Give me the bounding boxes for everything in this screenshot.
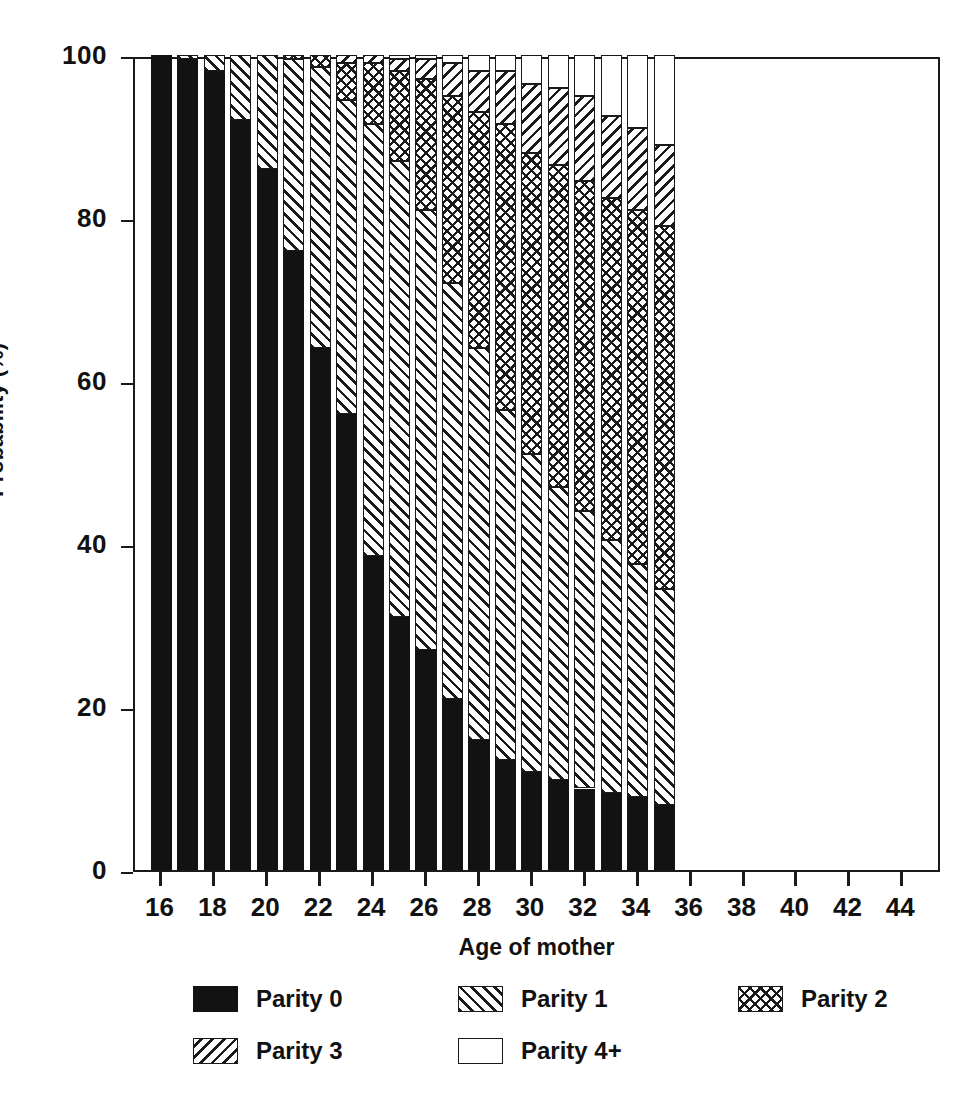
bar-segment (204, 71, 225, 870)
bar-segment (601, 793, 622, 870)
bar-segment (468, 71, 489, 112)
x-axis-tick (689, 872, 692, 886)
legend-item: Parity 4+ (458, 1037, 622, 1065)
bar-segment (415, 210, 436, 650)
x-axis: Age of mother 16182022242628303234363840… (133, 872, 940, 992)
bar-column (574, 55, 595, 870)
y-axis-tick (121, 709, 133, 711)
bar-segment (521, 84, 542, 153)
bar-segment (415, 55, 436, 59)
bar-segment (495, 760, 516, 870)
y-axis-tick (121, 546, 133, 548)
legend-swatch (193, 986, 238, 1012)
legend-item: Parity 3 (193, 1037, 343, 1065)
bar-column (389, 55, 410, 870)
x-axis-tick (477, 872, 480, 886)
bar-column (283, 55, 304, 870)
x-axis-tick (636, 872, 639, 886)
bar-column (415, 55, 436, 870)
bar-column (310, 55, 331, 870)
x-axis-tick (212, 872, 215, 886)
bar-segment (442, 96, 463, 283)
bar-segment (521, 454, 542, 772)
legend-label: Parity 0 (256, 985, 343, 1013)
x-axis-label: 44 (886, 892, 915, 923)
bar-segment (442, 55, 463, 63)
bar-column (336, 55, 357, 870)
x-axis-tick (371, 872, 374, 886)
bar-segment (230, 55, 251, 120)
bar-segment (283, 59, 304, 251)
x-axis-label: 38 (727, 892, 756, 923)
x-axis-label: 16 (145, 892, 174, 923)
x-axis-label: 20 (251, 892, 280, 923)
bar-column (442, 55, 463, 870)
legend-label: Parity 3 (256, 1037, 343, 1065)
bar-segment (574, 789, 595, 871)
bar-segment (389, 617, 410, 870)
bar-column (521, 55, 542, 870)
bar-segment (415, 59, 436, 79)
bar-segment (627, 128, 648, 210)
bar-column (654, 55, 675, 870)
bar-column (363, 55, 384, 870)
legend-item: Parity 1 (458, 985, 608, 1013)
bar-segment (548, 165, 569, 487)
bar-column (204, 55, 225, 870)
bar-segment (257, 55, 278, 169)
bar-column (627, 55, 648, 870)
bar-segment (389, 55, 410, 59)
bar-segment (257, 169, 278, 870)
y-axis-label: 100 (0, 40, 107, 71)
y-axis-tick (121, 872, 133, 874)
x-axis-label: 34 (621, 892, 650, 923)
bar-segment (521, 55, 542, 84)
bar-segment (389, 71, 410, 161)
bar-segment (468, 740, 489, 870)
y-axis-label: 60 (0, 366, 107, 397)
bar-segment (389, 59, 410, 71)
bar-segment (654, 805, 675, 870)
x-axis-label: 24 (357, 892, 386, 923)
bar-column (230, 55, 251, 870)
y-axis-label: 0 (0, 855, 107, 886)
bar-segment (574, 55, 595, 96)
bar-column (151, 55, 172, 870)
legend-label: Parity 2 (801, 985, 888, 1013)
bar-segment (495, 55, 516, 71)
bar-segment (601, 540, 622, 793)
bar-segment (177, 59, 198, 870)
bar-segment (310, 348, 331, 870)
bar-segment (363, 55, 384, 63)
x-axis-tick (900, 872, 903, 886)
bar-column (177, 55, 198, 870)
bar-segment (363, 124, 384, 556)
bar-segment (601, 116, 622, 198)
bar-segment (521, 153, 542, 455)
y-axis-tick (121, 383, 133, 385)
bar-segment (495, 124, 516, 409)
bar-segment (468, 112, 489, 348)
bar-segment (601, 55, 622, 116)
bar-segment (574, 181, 595, 511)
bar-column (495, 55, 516, 870)
x-axis-title: Age of mother (133, 934, 940, 961)
chart-figure: Probability (%) 020406080100 Age of moth… (0, 0, 979, 1102)
bar-segment (574, 96, 595, 182)
bar-segment (415, 650, 436, 870)
bar-column (257, 55, 278, 870)
bar-segment (230, 120, 251, 870)
legend-swatch (458, 1038, 503, 1064)
legend-label: Parity 4+ (521, 1037, 622, 1065)
plot-area (133, 57, 940, 872)
bar-segment (574, 511, 595, 788)
bar-segment (654, 589, 675, 805)
bar-segment (151, 55, 172, 870)
legend-swatch (458, 986, 503, 1012)
y-axis-label: 20 (0, 692, 107, 723)
bar-segment (601, 198, 622, 540)
bar-segment (548, 487, 569, 780)
bar-segment (548, 88, 569, 165)
bar-segment (442, 283, 463, 699)
x-axis-tick (794, 872, 797, 886)
